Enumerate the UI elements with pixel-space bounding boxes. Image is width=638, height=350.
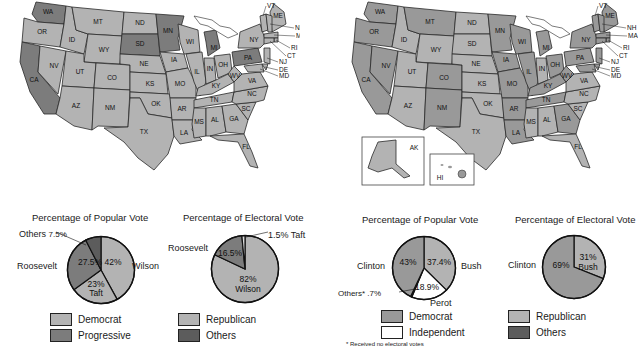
state-label-nd: ND: [467, 19, 477, 26]
state-label-fl: FL: [242, 143, 250, 150]
state-label-ks: KS: [146, 80, 155, 87]
state-label-md: MD: [279, 72, 289, 79]
state-label-oh: OH: [550, 61, 560, 68]
state-label-ia: IA: [503, 56, 510, 63]
pie-value-label: 31%: [579, 252, 596, 262]
state-label-ok: OK: [151, 100, 161, 107]
state-md: [244, 64, 264, 72]
state-label-az: AZ: [72, 102, 80, 109]
state-label-la: LA: [512, 129, 521, 136]
legend-item-progressive: Progressive: [50, 327, 131, 343]
state-label-or: OR: [369, 28, 379, 35]
state-label-nc: NC: [579, 90, 589, 97]
state-label-wi: WI: [518, 38, 526, 45]
state-label-ks: KS: [478, 80, 487, 87]
state-md: [576, 64, 596, 72]
state-label-ia: IA: [171, 56, 178, 63]
state-label-pa: PA: [576, 54, 585, 61]
state-label-ne: NE: [139, 60, 149, 67]
legend-1992-a: Democrat Independent: [381, 308, 465, 340]
pie-value-label: 18.9%: [415, 282, 440, 292]
state-label-wv: WV: [230, 72, 241, 79]
state-label-in: IN: [539, 65, 546, 72]
state-label-ut: UT: [76, 68, 85, 75]
legend-item-independent: Independent: [381, 324, 465, 340]
pie-value-label: Taft: [89, 288, 103, 298]
label-others: Others 7.5%: [19, 229, 67, 239]
state-label-fl: FL: [574, 143, 582, 150]
state-label-oh: OH: [218, 61, 228, 68]
state-label-tn: TN: [210, 96, 219, 103]
state-label-mo: MO: [507, 80, 517, 87]
legend-1992-b: Republican Others: [508, 308, 586, 340]
label-perot: Perot: [430, 298, 452, 308]
state-fl: [542, 134, 590, 168]
legend-item-republican: Republican: [178, 311, 256, 327]
label-clinton: Clinton: [357, 261, 385, 271]
pie-electoral-1992: Percentage of Electoral Vote 69%31%Bush …: [480, 205, 638, 350]
swatch-icon: [50, 313, 72, 326]
state-label-mn: MN: [495, 27, 505, 34]
swatch-icon: [50, 329, 72, 342]
state-label-sc: SC: [573, 105, 582, 112]
swatch-icon: [508, 326, 530, 339]
state-label-mo: MO: [175, 80, 185, 87]
state-label-ne: NE: [471, 60, 481, 67]
state-label-co: CO: [439, 74, 449, 81]
state-label-wa: WA: [43, 8, 54, 15]
state-label-ca: CA: [29, 76, 39, 83]
state-label-ky: KY: [212, 82, 221, 89]
pie-value-label: 37.4%: [427, 257, 452, 267]
state-label-la: LA: [180, 129, 189, 136]
map-1912: WAORCANVIDMTWYUTCOAZNMNDSDNEKSOKTXMNIAMO…: [0, 0, 300, 180]
pie-chart: 42%27.5%23%Taft: [66, 235, 136, 305]
state-label-nj: NJ: [611, 58, 619, 65]
swatch-icon: [178, 329, 200, 342]
state-label-mt: MT: [93, 18, 102, 25]
pie-title: Percentage of Popular Vote: [362, 214, 478, 225]
swatch-icon: [508, 310, 530, 323]
state-label-in: IN: [207, 65, 214, 72]
legend-item-democrat: Democrat: [50, 311, 131, 327]
inset-alaska: AK: [362, 137, 424, 185]
footnote: * Received no electoral votes: [346, 341, 424, 347]
pie-value-label: 43%: [399, 257, 416, 267]
state-label-al: AL: [211, 116, 219, 123]
pie-title: Percentage of Electoral Vote: [515, 214, 635, 225]
pie-value-label: Bush: [578, 262, 598, 272]
state-label-ak: AK: [410, 144, 419, 151]
state-label-ar: AR: [177, 105, 186, 112]
swatch-icon: [381, 310, 403, 323]
state-label-wy: WY: [99, 46, 110, 53]
state-label-az: AZ: [404, 102, 412, 109]
state-label-mt: MT: [425, 18, 434, 25]
label-bush: Bush: [461, 261, 482, 271]
state-label-il: IL: [526, 68, 532, 75]
state-label-ny: NY: [249, 36, 259, 43]
state-label-co: CO: [107, 74, 117, 81]
state-fl: [210, 134, 258, 168]
state-label-hi: HI: [437, 174, 444, 181]
legend-1912-b: Republican Others: [178, 311, 256, 343]
state-label-wv: WV: [562, 72, 573, 79]
state-label-mi: MI: [210, 44, 217, 51]
state-label-ri: RI: [623, 44, 630, 51]
state-label-sc: SC: [241, 105, 250, 112]
label-roosevelt: Roosevelt: [168, 243, 208, 253]
swatch-icon: [381, 326, 403, 339]
state-label-vt: VT: [267, 2, 275, 9]
pie-popular-1912: Percentage of Popular Vote 42%27.5%23%Ta…: [0, 205, 165, 350]
state-label-tn: TN: [542, 96, 551, 103]
state-label-ma: MA: [296, 32, 300, 39]
state-label-nm: NM: [437, 104, 447, 111]
state-label-or: OR: [37, 28, 47, 35]
state-label-ut: UT: [408, 68, 417, 75]
state-label-ky: KY: [544, 82, 553, 89]
state-label-me: ME: [605, 12, 615, 19]
state-label-id: ID: [69, 36, 76, 43]
state-label-ga: GA: [561, 115, 571, 122]
legend-1912-a: Democrat Progressive: [50, 311, 131, 343]
state-label-wy: WY: [431, 46, 442, 53]
state-label-ar: AR: [509, 105, 518, 112]
state-label-ny: NY: [581, 36, 591, 43]
